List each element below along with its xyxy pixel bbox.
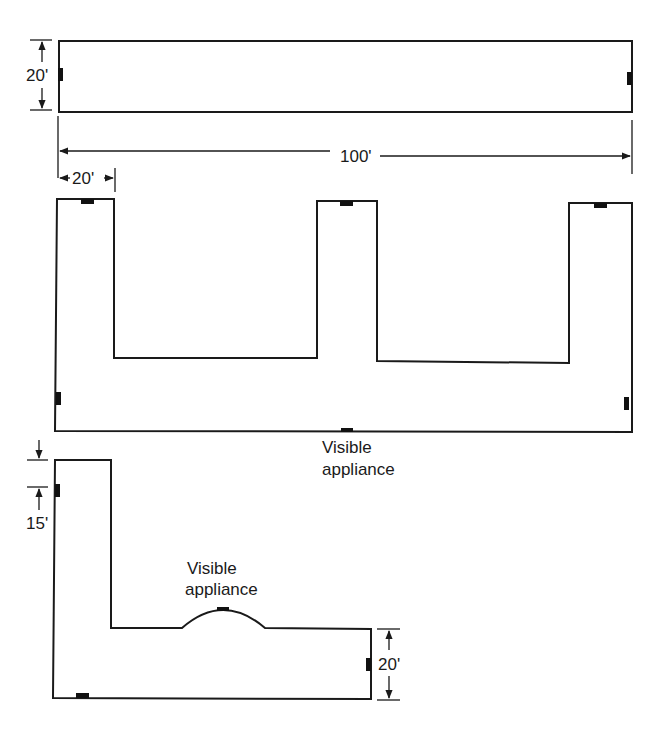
plan-3-offset-dimension: 15' [26, 440, 48, 533]
plan-1-rectangle: 20' 100' [26, 40, 632, 178]
dimension-label-100ft: 100' [340, 147, 372, 166]
floor-plans-diagram: 20' 100' 20' Visible appliance [0, 0, 657, 729]
appliance-marker [76, 693, 89, 698]
appliance-marker [55, 484, 60, 497]
plan-1-length-dimension: 100' [58, 116, 632, 178]
plan-2-wing-dimension: 20' [60, 168, 115, 192]
visible-appliance-label: appliance [185, 580, 258, 599]
dimension-label-15ft: 15' [26, 514, 48, 533]
dimension-label-20ft: 20' [378, 655, 400, 674]
appliance-marker [627, 72, 632, 85]
appliance-marker [340, 201, 353, 206]
dimension-label-20ft: 20' [26, 66, 48, 85]
plan-2-comb: 20' Visible appliance [55, 168, 632, 479]
plan-3-height-dimension: 20' [377, 629, 400, 700]
appliance-marker [624, 397, 629, 410]
dimension-label-20ft: 20' [72, 169, 94, 188]
appliance-marker [594, 203, 607, 208]
visible-appliance-marker [217, 607, 229, 611]
plan-1-height-dimension: 20' [26, 40, 52, 110]
plan-2-outline [55, 199, 632, 432]
appliance-marker [56, 392, 61, 405]
visible-appliance-label: appliance [322, 460, 395, 479]
visible-appliance-marker [341, 428, 353, 432]
appliance-marker [58, 68, 63, 81]
visible-appliance-label: Visible [322, 438, 372, 457]
visible-appliance-label: Visible [187, 559, 237, 578]
appliance-marker [366, 658, 371, 671]
plan-3-l-shape: 15' Visible appliance 20' [26, 440, 400, 700]
appliance-marker [81, 199, 94, 204]
plan-1-outline [59, 41, 632, 112]
